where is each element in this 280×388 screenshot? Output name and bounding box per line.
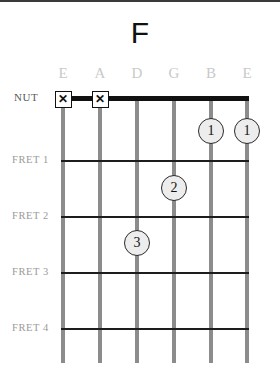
fret-label-3: FRET 3 bbox=[12, 267, 49, 278]
mute-x-icon-string-e-low: ✕ bbox=[55, 91, 72, 108]
page-title: F bbox=[0, 18, 280, 48]
string-line-4 bbox=[172, 97, 176, 363]
string-label-2: A bbox=[88, 66, 112, 81]
string-line-2 bbox=[98, 97, 102, 363]
string-label-6: E bbox=[235, 66, 259, 81]
finger-dot-1-string-b: 1 bbox=[198, 118, 224, 144]
nut-line bbox=[61, 96, 249, 101]
fret-line-3 bbox=[61, 272, 249, 274]
fret-label-4: FRET 4 bbox=[12, 323, 49, 334]
nut-label: NUT bbox=[14, 92, 38, 103]
string-line-1 bbox=[61, 97, 65, 363]
fret-label-1: FRET 1 bbox=[12, 155, 49, 166]
string-label-3: D bbox=[125, 66, 149, 81]
finger-dot-2-string-g: 2 bbox=[161, 175, 187, 201]
string-label-1: E bbox=[51, 66, 75, 81]
finger-dot-3-string-d: 3 bbox=[124, 230, 150, 256]
string-label-4: G bbox=[162, 66, 186, 81]
fret-line-1 bbox=[61, 160, 249, 162]
chord-diagram-page: F E A D G B E NUT FRET 1 FRET 2 FRET 3 F… bbox=[0, 0, 280, 388]
fret-label-2: FRET 2 bbox=[12, 211, 49, 222]
fret-line-4 bbox=[61, 328, 249, 330]
mute-x-icon-string-a: ✕ bbox=[92, 91, 109, 108]
string-label-5: B bbox=[199, 66, 223, 81]
finger-dot-1-string-e-high: 1 bbox=[234, 118, 260, 144]
fret-line-2 bbox=[61, 216, 249, 218]
